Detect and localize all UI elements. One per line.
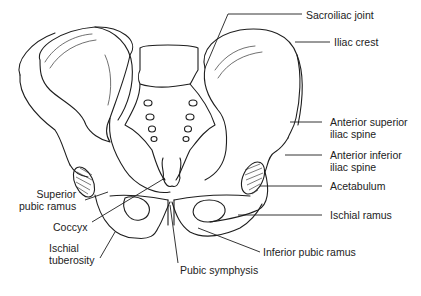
right-acetabulum [237,158,269,197]
label-asis-line1: Anterior superior [330,116,408,128]
left-ilium [19,27,170,193]
leader-superior-pubic-ramus [85,192,108,200]
label-superior-pubic-ramus: Superior pubic ramus [19,188,76,212]
label-it-line2: tuberosity [49,254,95,266]
label-sacroiliac-joint: Sacroiliac joint [306,9,374,21]
label-spr-line2: pubic ramus [19,200,76,212]
label-acetabulum: Acetabulum [330,180,385,192]
label-iliac-crest: Iliac crest [334,36,378,48]
label-spr-line1: Superior [37,188,77,200]
leader-lines [85,14,330,263]
label-coccyx: Coccyx [53,221,87,233]
sacrum [125,45,215,180]
label-ischial-tuberosity: Ischial tuberosity [49,242,95,266]
label-aiis-line1: Anterior inferior [330,149,402,161]
label-ischial-ramus: Ischial ramus [330,209,392,221]
label-asis-line2: iliac spine [330,128,376,140]
label-anterior-superior-iliac-spine: Anterior superior iliac spine [330,116,408,140]
label-pubic-symphysis: Pubic symphysis [180,264,258,276]
coccyx-bone [162,158,181,187]
leader-ischial-tuberosity [100,232,115,258]
leader-inferior-pubic-ramus [198,228,260,252]
label-it-line1: Ischial [49,242,79,254]
label-anterior-inferior-iliac-spine: Anterior inferior iliac spine [330,149,402,173]
label-inferior-pubic-ramus: Inferior pubic ramus [263,246,356,258]
label-aiis-line2: iliac spine [330,161,376,173]
